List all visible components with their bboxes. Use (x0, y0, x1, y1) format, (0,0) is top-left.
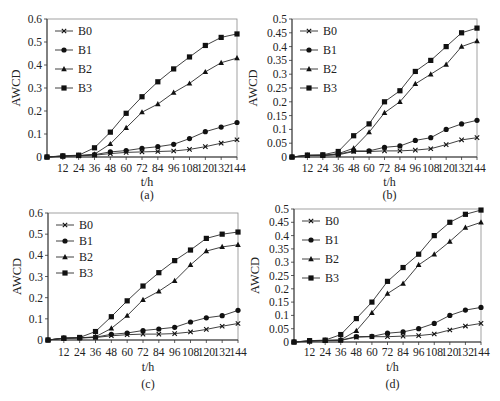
x-tick-label: 12 (57, 162, 69, 174)
x-tick-label: 96 (410, 162, 422, 174)
data-point-marker (428, 71, 434, 76)
y-tick-label: 0.4 (275, 230, 290, 242)
data-point-marker (444, 127, 449, 132)
data-point-marker (382, 99, 387, 104)
data-point-marker (140, 283, 145, 288)
y-tick-label: 0.1 (28, 128, 43, 140)
data-point-marker (172, 258, 177, 263)
x-tick-label: 84 (153, 346, 165, 358)
x-tick-label: 96 (168, 162, 180, 174)
data-point-marker (366, 121, 371, 126)
data-point-marker (124, 148, 129, 153)
data-point-marker (220, 232, 225, 237)
y-tick-label: 0.35 (267, 54, 287, 66)
legend-label: B1 (79, 234, 93, 248)
data-point-marker (474, 38, 480, 43)
series-b3 (44, 31, 239, 159)
series-line (47, 58, 237, 157)
data-point-marker (478, 207, 483, 212)
legend-label: B1 (78, 43, 92, 57)
series-b1 (44, 120, 239, 160)
legend-label: B0 (323, 24, 337, 38)
series-line (292, 28, 477, 157)
y-tick-label: 0.35 (269, 243, 289, 255)
data-point-marker (60, 153, 65, 158)
y-axis-title: AWCD (9, 69, 23, 106)
data-point-marker (93, 329, 98, 334)
data-point-marker (187, 54, 192, 59)
legend: B0B1B2B3 (56, 218, 93, 280)
series-b3 (289, 26, 479, 160)
data-point-marker (203, 129, 208, 134)
data-point-marker (432, 233, 437, 238)
x-tick-label: 60 (366, 346, 378, 358)
legend-marker (308, 237, 313, 242)
legend-marker (62, 238, 67, 243)
data-point-marker (235, 242, 241, 247)
panel-caption: (b) (383, 188, 397, 202)
data-point-marker (413, 69, 418, 74)
data-point-marker (474, 118, 479, 123)
y-axis-title: AWCD (10, 258, 24, 295)
data-point-marker (155, 101, 161, 106)
series-line (292, 41, 477, 157)
y-tick-label: 0.5 (273, 13, 288, 25)
data-point-marker (203, 43, 208, 48)
data-point-marker (124, 111, 129, 116)
data-point-marker (463, 307, 468, 312)
data-point-marker (413, 138, 418, 143)
data-point-marker (307, 338, 312, 343)
data-point-marker (76, 153, 81, 158)
data-point-marker (45, 337, 50, 342)
x-tick-label: 12 (304, 346, 316, 358)
data-point-marker (155, 79, 160, 84)
data-point-marker (156, 326, 161, 331)
y-tick-label: 0 (37, 334, 43, 346)
data-point-marker (203, 69, 209, 74)
data-point-marker (171, 90, 177, 95)
data-point-marker (369, 334, 374, 339)
legend-item-b3: B3 (300, 81, 337, 95)
data-point-marker (447, 313, 452, 318)
data-point-marker (416, 252, 421, 257)
data-point-marker (92, 145, 97, 150)
data-point-marker (413, 81, 419, 86)
y-tick-label: 0.5 (28, 36, 43, 48)
legend-label: B0 (78, 24, 92, 38)
data-point-marker (204, 236, 209, 241)
y-tick-label: 0.1 (275, 309, 290, 321)
data-point-marker (474, 26, 479, 31)
y-tick-label: 0.4 (28, 59, 43, 71)
y-tick-label: 0.3 (28, 82, 43, 94)
y-axis-title: AWCD (246, 69, 260, 106)
chart-panel-d: 00.050.10.150.20.250.30.350.40.450.51224… (248, 203, 490, 391)
data-point-marker (416, 326, 421, 331)
data-point-marker (459, 121, 464, 126)
legend: B0B1B2B3 (302, 214, 339, 285)
data-point-marker (289, 154, 294, 159)
x-tick-label: 60 (121, 346, 133, 358)
panel-caption: (c) (141, 377, 154, 391)
data-point-marker (428, 58, 433, 63)
data-point-marker (447, 220, 452, 225)
x-tick-label: 60 (363, 162, 375, 174)
x-tick-label: 48 (351, 346, 363, 358)
data-point-marker (397, 143, 402, 148)
data-point-marker (400, 265, 405, 270)
legend-marker (61, 47, 66, 52)
data-point-marker (77, 335, 82, 340)
data-point-marker (171, 66, 176, 71)
data-point-marker (366, 148, 371, 153)
series-b2 (45, 242, 241, 342)
x-tick-label: 48 (106, 346, 118, 358)
x-tick-label: 84 (394, 162, 406, 174)
legend-marker (306, 47, 311, 52)
legend-label: B1 (325, 233, 339, 247)
data-point-marker (478, 219, 484, 224)
data-point-marker (204, 315, 209, 320)
data-point-marker (305, 152, 310, 157)
x-axis-title: t/h (141, 175, 154, 189)
data-point-marker (323, 338, 328, 343)
y-tick-label: 0.6 (29, 207, 44, 219)
chart-panel-c: 00.10.20.30.40.50.6122436486072849610812… (10, 207, 247, 391)
